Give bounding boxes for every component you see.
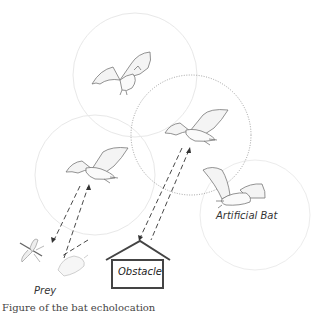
moth-icon-prey: [58, 255, 88, 276]
arrow-up-bat-left: [86, 184, 91, 190]
arrow-up-bat-middle: [186, 147, 191, 153]
echo-lines-prey: [54, 186, 88, 258]
bat-icon-top: [92, 52, 151, 95]
prey-label: Prey: [34, 285, 56, 296]
artificial-bat-label: Artificial Bat: [216, 210, 277, 221]
echo-lines-obstacle: [140, 148, 189, 240]
bat-icon-middle: [165, 110, 228, 145]
bat-icon-artificial: [203, 168, 265, 209]
bat-icon-left: [66, 148, 128, 184]
insect-icon-prey: [20, 239, 44, 262]
obstacle-label: Obstacle: [118, 266, 162, 277]
obstacle-house: [106, 241, 170, 288]
figure-caption-cutoff: Figure of the bat echolocation: [2, 302, 155, 313]
